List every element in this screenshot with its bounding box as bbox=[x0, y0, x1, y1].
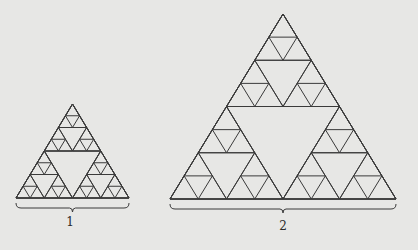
brace-2 bbox=[170, 204, 396, 213]
brace-1 bbox=[16, 203, 129, 212]
sierpinski-triangle-2 bbox=[170, 14, 396, 199]
triangle-2-label: 2 bbox=[279, 219, 287, 233]
triangle-1-label: 1 bbox=[66, 215, 74, 229]
sierpinski-triangle-1 bbox=[16, 104, 129, 198]
sierpinski-figure bbox=[0, 0, 418, 250]
